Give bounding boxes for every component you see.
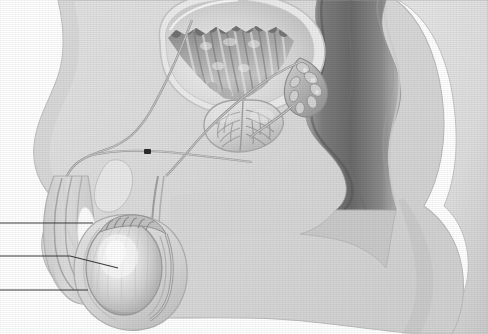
vas-deferens-marker bbox=[144, 149, 151, 154]
illustration-canvas bbox=[0, 0, 488, 334]
male-pelvic-anatomy-figure bbox=[0, 0, 488, 334]
